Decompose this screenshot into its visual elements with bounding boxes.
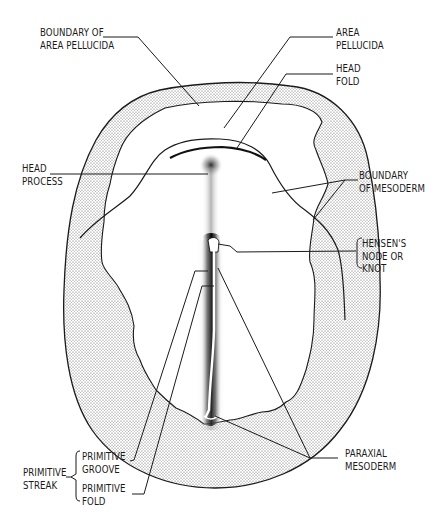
head-process	[199, 153, 223, 238]
label-line: PARAXIAL	[345, 447, 396, 460]
label-hensens-node: HENSEN'S NODE OR KNOT	[362, 237, 406, 275]
primitive-streak-bracket	[71, 451, 80, 501]
label-line: STREAK	[23, 479, 67, 492]
label-line: PRIMITIVE	[82, 450, 126, 463]
label-primitive-groove: PRIMITIVE GROOVE	[82, 450, 126, 475]
label-line: HENSEN'S	[362, 237, 406, 250]
label-line: PRIMITIVE	[82, 482, 126, 495]
label-line: FOLD	[336, 75, 361, 88]
label-line: PRIMITIVE	[23, 466, 67, 479]
label-line: AREA PELLUCIDA	[40, 39, 114, 52]
label-line: NODE OR	[362, 250, 406, 263]
label-line: KNOT	[362, 262, 406, 275]
label-line: HEAD	[336, 62, 361, 75]
label-primitive-fold: PRIMITIVE FOLD	[82, 482, 126, 507]
label-boundary-of-mesoderm: BOUNDARY OF MESODERM	[359, 169, 425, 194]
label-primitive-streak: PRIMITIVE STREAK	[23, 466, 67, 491]
label-line: PROCESS	[22, 175, 63, 188]
label-line: OF MESODERM	[359, 182, 425, 195]
label-line: GROOVE	[82, 463, 126, 476]
label-line: MESODERM	[345, 460, 396, 473]
label-line: BOUNDARY OF	[40, 26, 114, 39]
label-line: PELLUCIDA	[336, 39, 384, 52]
label-head-fold: HEAD FOLD	[336, 62, 361, 87]
label-area-pellucida: AREA PELLUCIDA	[336, 26, 384, 51]
label-line: AREA	[336, 26, 384, 39]
label-paraxial-mesoderm: PARAXIAL MESODERM	[345, 447, 396, 472]
label-line: HEAD	[22, 162, 63, 175]
label-line: FOLD	[82, 495, 126, 508]
label-head-process: HEAD PROCESS	[22, 162, 63, 187]
label-line: BOUNDARY	[359, 169, 425, 182]
label-boundary-of-area-pellucida: BOUNDARY OF AREA PELLUCIDA	[40, 26, 114, 51]
primitive-streak	[196, 233, 226, 430]
